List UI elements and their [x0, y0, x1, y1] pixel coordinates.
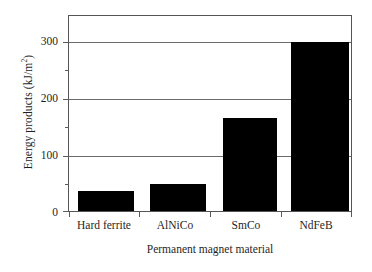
x-tick-label-alnico: AlNiCo [135, 219, 215, 231]
x-tick-label-hard-ferrite: Hard ferrite [64, 219, 144, 231]
x-tick-1 [139, 212, 140, 217]
y-tick-label-0: 0 [18, 206, 58, 218]
x-tick-0 [69, 212, 70, 217]
y-axis-title-tail: ) [22, 55, 34, 59]
x-axis-title: Permanent magnet material [68, 243, 352, 255]
y-axis-title-superscript: 2 [20, 59, 29, 63]
x-tick-4 [351, 212, 352, 217]
y-tick-label-100: 100 [18, 149, 58, 161]
bar-hard-ferrite [78, 191, 134, 211]
x-tick-2 [210, 212, 211, 217]
bar-smco [223, 118, 277, 211]
y-tick-label-300: 300 [18, 35, 58, 47]
y-tick-major-300 [63, 42, 69, 43]
y-tick-major-200 [63, 99, 69, 100]
y-tick-major-100 [63, 156, 69, 157]
x-tick-label-ndfeb: NdFeB [276, 219, 356, 231]
y-tick-minor-250 [65, 70, 69, 71]
x-tick-3 [281, 212, 282, 217]
bar-ndfeb [291, 42, 349, 211]
plot-area [68, 15, 352, 212]
x-tick-label-smco: SmCo [206, 219, 286, 231]
y-tick-minor-50 [65, 184, 69, 185]
bar-chart-figure: Energy products (kJ/m2) 0 100 200 300 Ha… [0, 0, 372, 272]
y-tick-label-200: 200 [18, 92, 58, 104]
bar-alnico [150, 184, 206, 211]
y-tick-minor-150 [65, 127, 69, 128]
